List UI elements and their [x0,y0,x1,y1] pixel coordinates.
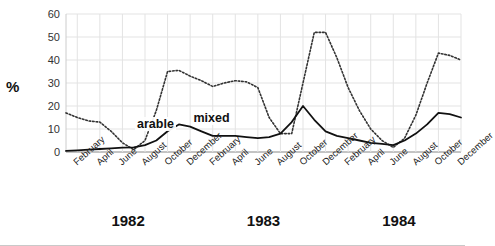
y-tick-30: 30 [26,77,60,89]
y-tick-60: 60 [26,8,60,20]
series-label-arable: arable [135,117,176,131]
year-label-1983: 1983 [247,212,280,229]
year-label-1982: 1982 [111,212,144,229]
y-tick-40: 40 [26,54,60,66]
y-tick-50: 50 [26,31,60,43]
y-tick-10: 10 [26,123,60,135]
y-axis-title: % [6,78,19,95]
series-label-mixed: mixed [191,111,231,125]
y-tick-0: 0 [26,146,60,158]
year-label-1984: 1984 [382,212,415,229]
y-tick-20: 20 [26,100,60,112]
